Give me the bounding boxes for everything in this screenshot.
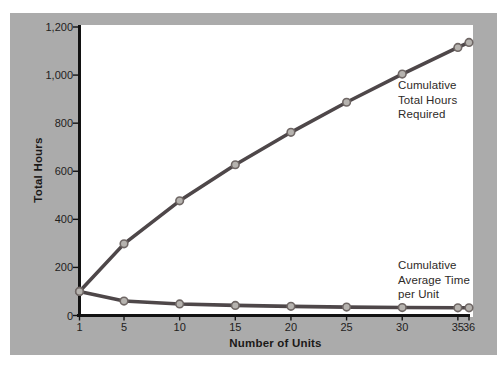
x-tick-label: 20 xyxy=(276,320,306,334)
data-point-marker xyxy=(343,303,351,311)
data-point-marker xyxy=(287,303,295,311)
x-axis-title: Number of Units xyxy=(78,337,473,349)
x-tick-label: 15 xyxy=(220,320,250,334)
annotation-cumulative-total-hours: Cumulative Total Hours Required xyxy=(398,78,478,122)
annotation-cumulative-average-time: Cumulative Average Time per Unit xyxy=(398,258,488,302)
x-tick-label: 36 xyxy=(454,320,484,334)
data-point-marker xyxy=(287,129,295,137)
plot-area: Cumulative Total Hours Required Cumulati… xyxy=(78,25,473,317)
data-point-marker xyxy=(454,44,462,52)
data-point-marker xyxy=(176,197,184,205)
data-point-marker xyxy=(120,240,128,248)
x-tick-label: 5 xyxy=(109,320,139,334)
data-point-marker xyxy=(465,39,473,47)
y-tick-label: 600 xyxy=(10,164,73,178)
data-point-marker xyxy=(454,304,462,312)
data-point-marker xyxy=(465,304,473,312)
data-point-marker xyxy=(232,161,240,169)
y-tick-label: 200 xyxy=(10,260,73,274)
data-point-marker xyxy=(398,70,406,78)
x-tick-label: 25 xyxy=(332,320,362,334)
x-tick-label: 10 xyxy=(165,320,195,334)
data-point-marker xyxy=(232,302,240,310)
x-tick-label: 30 xyxy=(387,320,417,334)
y-tick-label: 1,000 xyxy=(10,68,73,82)
data-point-marker xyxy=(343,98,351,106)
figure-page: Total Hours Cumulative Total Hours Requi… xyxy=(0,0,502,368)
y-tick-label: 1,200 xyxy=(10,20,73,34)
data-point-marker xyxy=(176,300,184,308)
x-tick-label: 1 xyxy=(65,320,95,334)
y-tick-label: 800 xyxy=(10,116,73,130)
data-point-marker xyxy=(398,304,406,312)
chart-panel: Total Hours Cumulative Total Hours Requi… xyxy=(10,13,497,355)
data-point-marker xyxy=(76,288,84,296)
y-tick-label: 400 xyxy=(10,212,73,226)
data-point-marker xyxy=(120,297,128,305)
